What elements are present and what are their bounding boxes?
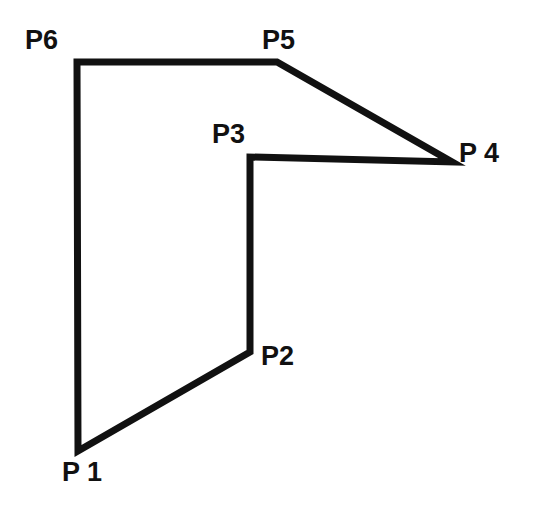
vertex-label-p3: P3 <box>212 121 245 148</box>
vertex-label-p4: P 4 <box>459 140 499 167</box>
vertex-label-p6: P6 <box>25 27 58 54</box>
vertex-label-p5: P5 <box>262 27 295 54</box>
vertex-label-p2: P2 <box>261 343 294 370</box>
polygon-diagram: P 1 P2 P3 P 4 P5 P6 <box>0 0 533 507</box>
polygon-outline <box>77 62 452 451</box>
vertex-label-p1: P 1 <box>62 459 102 486</box>
polygon-shape <box>0 0 533 507</box>
